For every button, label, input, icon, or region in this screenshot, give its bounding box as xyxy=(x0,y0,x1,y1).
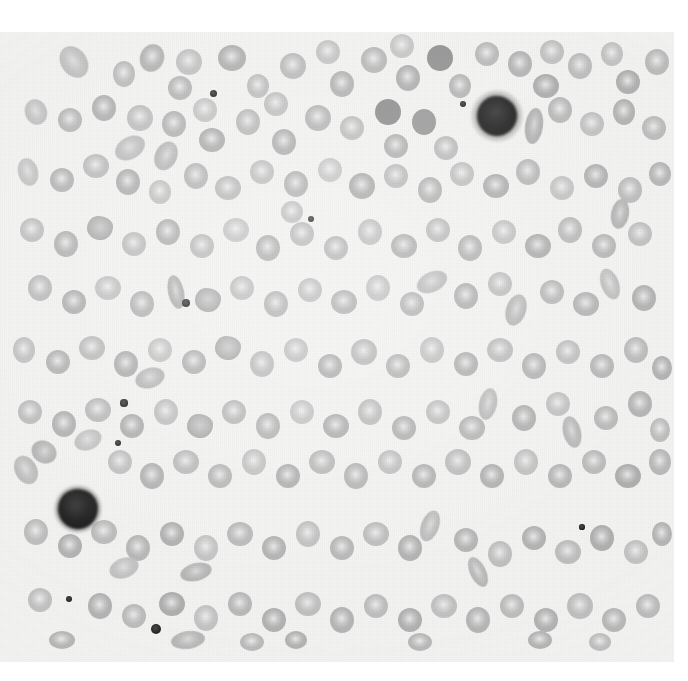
platelet xyxy=(120,399,127,406)
red-blood-cell xyxy=(62,290,86,314)
nucleated-cell xyxy=(54,485,102,533)
red-blood-cell xyxy=(236,109,260,135)
red-blood-cell xyxy=(550,176,574,200)
red-blood-cell xyxy=(601,42,623,66)
red-blood-cell xyxy=(568,53,592,79)
red-blood-cell xyxy=(412,109,436,135)
red-blood-cell xyxy=(122,604,146,628)
red-blood-cell xyxy=(242,449,266,475)
red-blood-cell xyxy=(573,292,599,316)
sickle-cell xyxy=(15,156,42,188)
red-blood-cell xyxy=(305,105,331,131)
red-blood-cell xyxy=(344,463,368,489)
red-blood-cell xyxy=(628,222,652,246)
red-blood-cell xyxy=(280,53,306,79)
red-blood-cell xyxy=(636,594,660,618)
red-blood-cell xyxy=(130,291,154,317)
sickle-cell xyxy=(476,386,500,421)
red-blood-cell xyxy=(418,177,442,203)
red-blood-cell xyxy=(127,105,153,131)
red-blood-cell xyxy=(54,231,78,257)
red-blood-cell xyxy=(454,283,478,309)
red-blood-cell xyxy=(240,633,264,651)
red-blood-cell xyxy=(525,234,551,258)
red-blood-cell xyxy=(148,338,172,362)
red-blood-cell xyxy=(28,588,52,612)
red-blood-cell xyxy=(396,65,420,91)
red-blood-cell xyxy=(285,631,307,649)
red-blood-cell xyxy=(590,354,614,378)
red-blood-cell xyxy=(193,98,217,122)
red-blood-cell xyxy=(426,400,450,424)
red-blood-cell xyxy=(276,464,300,488)
red-blood-cell xyxy=(323,414,349,438)
red-blood-cell xyxy=(194,605,218,631)
red-blood-cell xyxy=(340,116,364,140)
red-blood-cell xyxy=(398,535,422,561)
cell-nucleus xyxy=(55,486,100,531)
red-blood-cell xyxy=(122,232,146,256)
sickle-cell xyxy=(178,559,213,584)
red-blood-cell xyxy=(49,631,75,649)
red-blood-cell xyxy=(488,541,512,567)
red-blood-cell xyxy=(616,70,640,94)
red-blood-cell xyxy=(642,116,666,140)
red-blood-cell xyxy=(398,608,422,632)
red-blood-cell xyxy=(645,49,669,75)
red-blood-cell xyxy=(589,633,611,651)
red-blood-cell xyxy=(363,522,389,546)
red-blood-cell xyxy=(650,418,670,442)
platelet xyxy=(115,440,121,446)
red-blood-cell xyxy=(512,405,536,431)
red-blood-cell xyxy=(18,400,42,424)
red-blood-cell xyxy=(154,399,178,425)
red-blood-cell xyxy=(331,290,357,314)
red-blood-cell xyxy=(649,449,671,475)
platelet xyxy=(579,524,584,529)
red-blood-cell xyxy=(458,235,482,261)
red-blood-cell xyxy=(459,416,485,440)
red-blood-cell xyxy=(514,449,538,475)
red-blood-cell xyxy=(136,41,168,76)
red-blood-cell xyxy=(392,416,416,440)
red-blood-cell xyxy=(420,337,444,363)
red-blood-cell xyxy=(324,236,348,260)
red-blood-cell xyxy=(250,351,274,377)
red-blood-cell xyxy=(156,219,180,245)
red-blood-cell xyxy=(454,352,478,376)
red-blood-cell xyxy=(272,129,296,155)
red-blood-cell xyxy=(20,218,44,242)
red-blood-cell xyxy=(558,217,582,243)
red-blood-cell xyxy=(366,275,390,301)
red-blood-cell xyxy=(173,450,199,474)
red-blood-cell xyxy=(584,164,608,188)
red-blood-cell xyxy=(528,631,552,649)
red-blood-cell xyxy=(295,592,321,616)
red-blood-cell xyxy=(480,464,504,488)
crenated-red-cell xyxy=(195,288,221,312)
red-blood-cell xyxy=(567,593,593,619)
red-blood-cell xyxy=(500,594,524,618)
red-blood-cell xyxy=(533,74,559,98)
red-blood-cell xyxy=(296,521,320,547)
sickle-cell xyxy=(21,96,51,128)
red-blood-cell xyxy=(262,536,286,560)
red-blood-cell xyxy=(330,536,354,560)
red-blood-cell xyxy=(349,173,375,199)
red-blood-cell xyxy=(522,526,546,550)
sickle-cell xyxy=(71,425,104,454)
red-blood-cell xyxy=(116,169,140,195)
red-blood-cell xyxy=(85,398,111,422)
red-blood-cell xyxy=(483,174,509,198)
red-blood-cell xyxy=(298,278,322,302)
red-blood-cell xyxy=(412,464,436,488)
red-blood-cell xyxy=(375,99,401,125)
red-blood-cell xyxy=(466,607,490,633)
red-blood-cell xyxy=(649,162,671,186)
red-blood-cell xyxy=(264,92,288,116)
red-blood-cell xyxy=(391,234,417,258)
red-blood-cell xyxy=(548,464,572,488)
red-blood-cell xyxy=(149,180,171,204)
red-blood-cell xyxy=(230,276,254,300)
red-blood-cell xyxy=(358,399,382,425)
